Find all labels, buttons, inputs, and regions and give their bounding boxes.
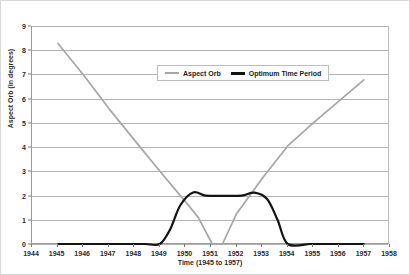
legend-line-swatch-icon [231, 72, 245, 75]
x-tick-mark [389, 244, 390, 247]
x-tick-mark [108, 244, 109, 247]
y-tick-label: 5 [22, 119, 26, 126]
series-line-optimum-time-period [58, 192, 365, 246]
x-tick-mark [338, 244, 339, 247]
x-axis-tick-labels: 1944194519461947194819491950195119521953… [31, 245, 389, 259]
x-tick-mark [57, 244, 58, 247]
y-tick-label: 3 [22, 168, 26, 175]
y-tick-label: 1 [22, 216, 26, 223]
y-tick-label: 6 [22, 95, 26, 102]
y-tick-label: 9 [22, 23, 26, 30]
x-tick-mark [133, 244, 134, 247]
y-tick-label: 0 [22, 241, 26, 248]
x-tick-label: 1948 [125, 250, 141, 257]
x-tick-label: 1944 [23, 250, 39, 257]
x-tick-mark [184, 244, 185, 247]
legend-label: Optimum Time Period [249, 70, 322, 77]
y-tick-label: 2 [22, 192, 26, 199]
x-tick-mark [236, 244, 237, 247]
x-tick-label: 1957 [356, 250, 372, 257]
legend-entry-optimum-time-period: Optimum Time Period [231, 70, 322, 77]
x-tick-label: 1946 [74, 250, 90, 257]
x-tick-mark [363, 244, 364, 247]
x-tick-label: 1954 [279, 250, 295, 257]
aspect-orb-line-chart: Aspect Orb (in degrees) 0123456789 Aspec… [1, 1, 410, 275]
x-tick-label: 1953 [253, 250, 269, 257]
x-tick-mark [287, 244, 288, 247]
x-tick-label: 1949 [151, 250, 167, 257]
x-tick-label: 1951 [202, 250, 218, 257]
x-tick-label: 1945 [49, 250, 65, 257]
x-tick-mark [210, 244, 211, 247]
x-tick-mark [159, 244, 160, 247]
chart-legend: Aspect Orb Optimum Time Period [157, 65, 329, 81]
x-tick-mark [261, 244, 262, 247]
y-axis-tick-labels: 0123456789 [1, 26, 31, 244]
x-tick-mark [82, 244, 83, 247]
plot-area: Aspect Orb Optimum Time Period [31, 26, 389, 244]
legend-entry-aspect-orb: Aspect Orb [165, 70, 221, 77]
x-tick-mark [312, 244, 313, 247]
x-tick-label: 1950 [177, 250, 193, 257]
y-tick-label: 7 [22, 71, 26, 78]
legend-label: Aspect Orb [183, 70, 221, 77]
x-tick-mark [31, 244, 32, 247]
legend-line-swatch-icon [165, 72, 179, 74]
x-tick-label: 1956 [330, 250, 346, 257]
x-tick-label: 1952 [228, 250, 244, 257]
x-tick-label: 1955 [304, 250, 320, 257]
y-tick-label: 4 [22, 144, 26, 151]
x-tick-label: 1947 [100, 250, 116, 257]
y-tick-label: 8 [22, 47, 26, 54]
x-axis-title: Time (1945 to 1957) [31, 259, 389, 266]
x-tick-label: 1958 [381, 250, 397, 257]
series-lines [32, 26, 390, 244]
chart-image-frame: Aspect Orb (in degrees) 0123456789 Aspec… [0, 0, 410, 275]
